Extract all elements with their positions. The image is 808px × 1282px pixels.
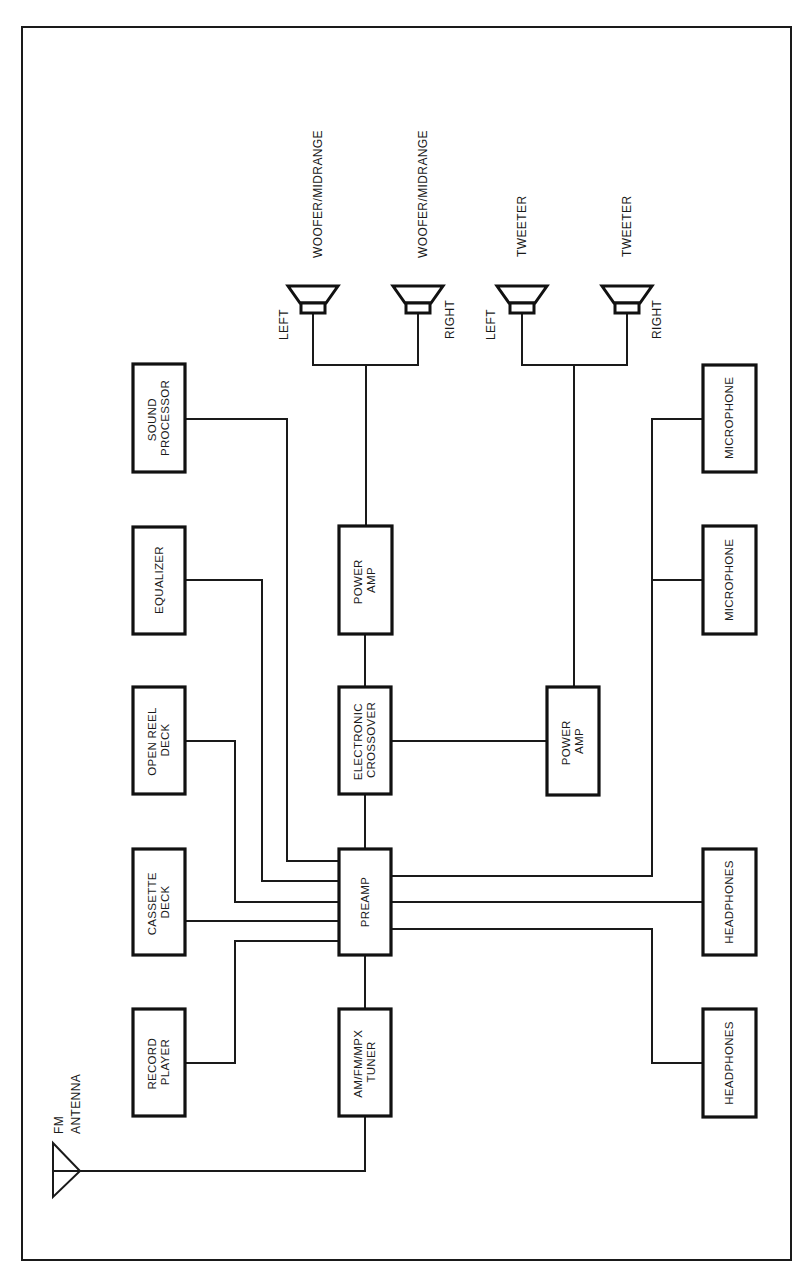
box-label: PROCESSOR: [159, 380, 171, 456]
box-preamp: PREAMP: [339, 849, 391, 955]
box-label: PREAMP: [359, 877, 371, 927]
speaker-side-label: LEFT: [484, 309, 498, 340]
speaker-magnet: [301, 303, 325, 313]
box-label: MICROPHONE: [723, 539, 735, 621]
speaker-side-label: RIGHT: [650, 299, 664, 339]
antenna-label-line2: ANTENNA: [69, 1074, 83, 1134]
box-record-player: RECORD PLAYER: [133, 1009, 185, 1116]
speaker-type-label: TWEETER: [620, 196, 634, 257]
box-power-amp-woofer: POWER AMP: [339, 526, 392, 634]
box-label: HEADPHONES: [723, 860, 735, 944]
speaker-magnet: [615, 303, 639, 313]
svg-text:ELECTRONIC CROSSOVER: ELECTRONIC CROSSOVER: [352, 700, 377, 781]
wire-preamp-headphones-2: [391, 929, 703, 1063]
box-label: TUNER: [365, 1041, 377, 1082]
box-microphone-1: MICROPHONE: [703, 365, 756, 472]
speaker-icon: [393, 286, 443, 303]
speaker-side-label: LEFT: [277, 309, 291, 340]
box-label: POWER: [352, 559, 364, 604]
svg-text:HEADPHONES: HEADPHONES: [723, 860, 735, 944]
speaker-icon: [288, 286, 338, 303]
speaker-side-label: RIGHT: [443, 299, 457, 339]
box-headphones-2: HEADPHONES: [703, 1009, 756, 1117]
box-headphones-1: HEADPHONES: [703, 849, 756, 955]
speaker-magnet: [510, 303, 534, 313]
speaker-type-label: WOOFER/MIDRANGE: [416, 130, 430, 258]
svg-text:MICROPHONE: MICROPHONE: [723, 539, 735, 621]
wire-microphones-preamp: [391, 419, 703, 876]
wire-woofer-split: [313, 313, 418, 365]
box-label: SOUND: [146, 398, 158, 441]
box-label: MICROPHONE: [723, 377, 735, 459]
box-equalizer: EQUALIZER: [133, 527, 185, 634]
box-label: EQUALIZER: [153, 546, 165, 614]
speaker-woofer-right: [393, 286, 443, 313]
box-power-amp-tweeter: POWER AMP: [547, 687, 599, 795]
box-label: PLAYER: [159, 1039, 171, 1085]
fm-antenna: FM ANTENNA: [52, 1074, 83, 1197]
box-label: AMP: [365, 567, 377, 593]
box-label: CASSETTE: [146, 872, 158, 935]
antenna-label-line1: FM: [52, 1116, 66, 1134]
wire-tweeter-split: [522, 313, 627, 365]
box-label: POWER: [560, 720, 572, 765]
speaker-icon: [602, 286, 652, 303]
box-label: CROSSOVER: [365, 702, 377, 778]
box-electronic-crossover: ELECTRONIC CROSSOVER: [339, 687, 391, 794]
wire-record-player-preamp: [185, 941, 338, 1063]
box-label: OPEN REEL: [146, 707, 158, 776]
box-cassette-deck: CASSETTE DECK: [133, 849, 185, 955]
speaker-type-label: WOOFER/MIDRANGE: [311, 130, 325, 258]
svg-text:MICROPHONE: MICROPHONE: [723, 377, 735, 459]
box-label: AM/FM/MPX: [352, 1030, 364, 1098]
box-label: DECK: [159, 723, 171, 756]
box-tuner: AM/FM/MPX TUNER: [339, 1009, 391, 1116]
box-microphone-2: MICROPHONE: [703, 526, 756, 634]
wire-equalizer-preamp: [185, 580, 338, 881]
svg-text:PREAMP: PREAMP: [359, 877, 371, 927]
box-label: RECORD: [146, 1038, 158, 1090]
speaker-magnet: [406, 303, 430, 313]
box-sound-processor: SOUND PROCESSOR: [133, 364, 185, 472]
speaker-woofer-left: [288, 286, 338, 313]
speaker-tweeter-right: [602, 286, 652, 313]
wire-antenna-tuner: [53, 1116, 365, 1171]
box-label: HEADPHONES: [723, 1021, 735, 1105]
svg-text:HEADPHONES: HEADPHONES: [723, 1021, 735, 1105]
box-label: AMP: [573, 728, 585, 754]
box-label: DECK: [159, 885, 171, 918]
svg-text:RECORD PLAYER: RECORD PLAYER: [146, 1034, 171, 1089]
box-open-reel-deck: OPEN REEL DECK: [133, 687, 185, 794]
stereo-system-diagram: WOOFER/MIDRANGE WOOFER/MIDRANGE TWEETER …: [0, 0, 808, 1282]
box-label: ELECTRONIC: [352, 703, 364, 780]
speaker-icon: [497, 286, 547, 303]
speaker-tweeter-left: [497, 286, 547, 313]
svg-text:EQUALIZER: EQUALIZER: [153, 546, 165, 614]
speaker-type-label: TWEETER: [515, 196, 529, 257]
